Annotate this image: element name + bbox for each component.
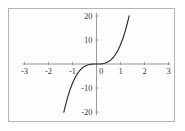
plot-canvas: -3-2-10123-20-101020 (9, 9, 174, 121)
x-tick-label: -2 (45, 66, 52, 76)
x-tick-label: 0 (99, 66, 103, 76)
y-tick-label: -20 (81, 107, 92, 117)
y-tick-label: 20 (84, 11, 93, 21)
plot-frame: -3-2-10123-20-101020 (8, 8, 175, 122)
x-tick-label: 2 (142, 66, 146, 76)
x-tick-label: -3 (21, 66, 28, 76)
figure-container: -3-2-10123-20-101020 (0, 0, 185, 131)
x-tick-label: 1 (118, 66, 122, 76)
y-tick-label: -10 (81, 83, 92, 93)
x-tick-label: 3 (166, 66, 170, 76)
x-tick-label: -1 (69, 66, 76, 76)
y-tick-label: 10 (84, 35, 93, 45)
